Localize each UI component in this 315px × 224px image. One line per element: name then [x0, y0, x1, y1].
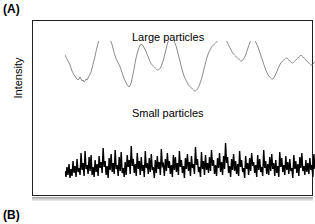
y-axis-label: Intensity: [12, 42, 24, 114]
panel-label-a: (A): [3, 3, 20, 15]
trace-label-large-particles: Large particles: [132, 31, 204, 43]
panel-label-b: (B): [3, 209, 20, 221]
trace-small-particles: [65, 143, 315, 178]
trace-canvas: [65, 41, 315, 217]
trace-label-small-particles: Small particles: [132, 107, 204, 119]
trace-large-particles: [65, 41, 315, 91]
baseline-band: [32, 197, 313, 201]
trace-svg: [65, 41, 315, 217]
